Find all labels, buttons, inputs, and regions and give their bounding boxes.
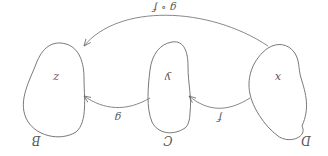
arrow-f — [189, 96, 250, 108]
element-x-label: x — [274, 71, 281, 84]
arrow-g-label: g — [114, 111, 121, 124]
set-b-blob — [23, 43, 84, 137]
element-z-label: z — [53, 71, 60, 84]
set-c-blob — [148, 42, 191, 133]
set-c-label: C — [163, 133, 172, 147]
function-composition-diagram: x y z f g g ∘ f D C B — [0, 0, 328, 156]
set-b-label: B — [31, 133, 41, 147]
set-d-label: D — [301, 133, 312, 147]
arrow-composite-label: g ∘ f — [151, 1, 176, 14]
element-y-label: y — [164, 71, 172, 84]
arrow-g-compose-f — [84, 15, 268, 46]
arrow-g — [84, 96, 150, 108]
set-d-blob — [249, 45, 307, 140]
arrow-f-label: f — [216, 111, 223, 124]
